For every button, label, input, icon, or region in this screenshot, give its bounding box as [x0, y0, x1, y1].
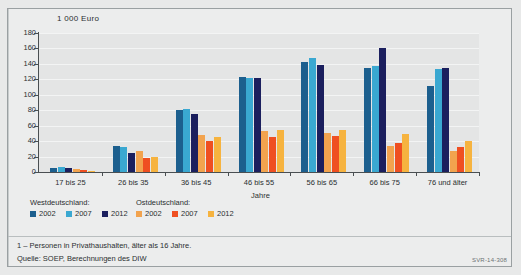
bar-group [50, 33, 95, 172]
bar [73, 169, 80, 172]
footer-divider [8, 236, 511, 237]
bar [198, 135, 205, 172]
bar [176, 110, 183, 172]
y-axis-tick-label: 180 [2, 29, 36, 37]
legend-item: 2012 [208, 210, 234, 218]
bar [214, 137, 221, 172]
x-axis-tick [228, 172, 229, 176]
x-axis-tick [479, 172, 480, 176]
bar [317, 65, 324, 172]
y-axis-tick-label: 160 [2, 44, 36, 52]
y-axis-tick [34, 95, 39, 96]
legend-item: 2002 [136, 210, 162, 218]
bar [239, 77, 246, 172]
y-axis-tick [34, 79, 39, 80]
y-axis-tick-label: 100 [2, 91, 36, 99]
bar [269, 137, 276, 172]
bar [80, 170, 87, 172]
bar [339, 130, 346, 172]
legend-item: 2007 [172, 210, 198, 218]
bar [395, 143, 402, 172]
y-axis-tick-label: 40 [2, 137, 36, 145]
x-axis-tick-label: 26 bis 35 [102, 178, 165, 187]
y-axis-tick [34, 110, 39, 111]
legend-label: 2012 [111, 210, 128, 218]
legend-heading-west: Westdeutschland: [30, 198, 89, 207]
chart-unit-title: 1 000 Euro [57, 14, 99, 23]
bar [332, 136, 339, 172]
y-axis-tick [34, 48, 39, 49]
y-axis-tick-label: 60 [2, 122, 36, 130]
legend-item: 2002 [30, 210, 56, 218]
bar-groups [39, 33, 479, 172]
bar-group [113, 33, 158, 172]
bar [88, 171, 95, 172]
legend-label: 2007 [181, 210, 198, 218]
bar [261, 131, 268, 172]
y-axis-tick [34, 157, 39, 158]
y-axis-tick-label: 140 [2, 60, 36, 68]
bar [191, 114, 198, 172]
y-axis-tick-label: 0 [2, 168, 36, 176]
legend-swatch [30, 211, 36, 217]
bar [65, 168, 72, 172]
legend-item: 2012 [102, 210, 128, 218]
bar [58, 167, 65, 172]
bar [450, 151, 457, 172]
bar [379, 48, 386, 172]
x-axis-tick [353, 172, 354, 176]
bar-group [301, 33, 346, 172]
y-axis-tick-label: 20 [2, 153, 36, 161]
bar [50, 168, 57, 172]
legend-label: 2002 [39, 210, 56, 218]
legend-swatch [172, 211, 178, 217]
bar [206, 141, 213, 172]
y-axis-tick-label: 120 [2, 75, 36, 83]
bar [277, 130, 284, 172]
legend-label: 2007 [75, 210, 92, 218]
figure-code: SVR-14-308 [472, 257, 507, 263]
bar [372, 66, 379, 172]
x-axis-line [38, 172, 480, 173]
bar [309, 58, 316, 172]
bar-group [364, 33, 409, 172]
bar [427, 86, 434, 172]
y-axis-tick [34, 64, 39, 65]
x-axis-tick-label: 66 bis 75 [353, 178, 416, 187]
legend-swatch [208, 211, 214, 217]
bar [254, 78, 261, 172]
bar [435, 69, 442, 172]
bar [136, 151, 143, 172]
figure-root: 1 000 Euro 020406080100120140160180 17 b… [0, 0, 521, 275]
x-axis-tick-label: 36 bis 45 [165, 178, 228, 187]
x-axis-tick [165, 172, 166, 176]
legend-heading-east: Ostdeutschland: [136, 198, 190, 207]
bar [113, 146, 120, 172]
bar-group [239, 33, 284, 172]
bar-group [176, 33, 221, 172]
bar [442, 68, 449, 172]
bar [151, 157, 158, 172]
bar [387, 146, 394, 172]
x-axis-tick [416, 172, 417, 176]
figure-footnote: 1 – Personen in Privathaushalten, älter … [17, 241, 191, 250]
legend-swatch [136, 211, 142, 217]
x-axis-tick-label: 56 bis 65 [290, 178, 353, 187]
figure-source: Quelle: SOEP, Berechnungen des DIW [17, 254, 147, 263]
legend-label: 2002 [145, 210, 162, 218]
legend-swatch [102, 211, 108, 217]
legend-item: 2007 [66, 210, 92, 218]
x-axis-tick-label: 17 bis 25 [39, 178, 102, 187]
x-axis-tick-label: 46 bis 55 [228, 178, 291, 187]
bar-group [427, 33, 472, 172]
bar [143, 158, 150, 172]
bar [183, 109, 190, 172]
y-axis-tick [34, 141, 39, 142]
bar [246, 78, 253, 172]
y-axis-tick [34, 126, 39, 127]
bar [324, 133, 331, 172]
x-axis-tick [102, 172, 103, 176]
x-axis-tick-label: 76 und älter [416, 178, 479, 187]
bar [457, 147, 464, 172]
y-axis-tick [34, 33, 39, 34]
